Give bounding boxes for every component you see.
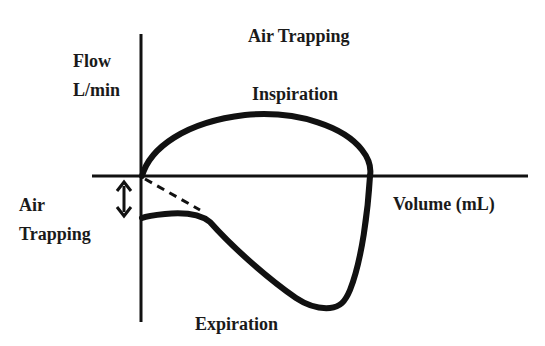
inspiration-curve — [142, 114, 370, 176]
y-axis-label-unit: L/min — [73, 80, 120, 100]
diagram-title: Air Trapping — [248, 26, 350, 46]
y-axis-label-flow: Flow — [73, 51, 111, 71]
air-trapping-annotation-line1: Air — [19, 195, 45, 215]
inspiration-label: Inspiration — [252, 84, 338, 104]
x-axis-label: Volume (mL) — [393, 194, 495, 215]
flow-volume-loop-diagram: Air Trapping Flow L/min Inspiration Volu… — [0, 0, 545, 346]
expected-expiration-dashed-line — [145, 179, 200, 210]
double-arrow-icon — [117, 182, 131, 216]
air-trapping-annotation-line2: Trapping — [19, 224, 91, 244]
expiration-label: Expiration — [195, 314, 278, 334]
